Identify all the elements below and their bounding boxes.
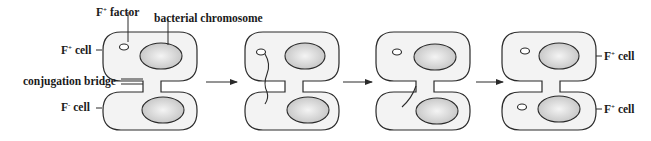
f-factor-plasmid — [257, 49, 266, 55]
bacterial-chromosome-top — [414, 44, 456, 70]
bacterial-chromosome-bottom — [538, 96, 580, 122]
f-factor-plasmid — [393, 49, 402, 55]
stage-2 — [245, 32, 339, 130]
bacterial-chromosome-top — [285, 43, 325, 69]
bacterial-chromosome-top — [539, 43, 579, 69]
label-f-minus-cell: F- cell — [61, 101, 90, 113]
label-conjugation-bridge: conjugation bridge — [23, 75, 116, 88]
conjugation-diagram: F+ factor bacterial chromosome F+ cell c… — [0, 0, 651, 141]
stage-4 — [502, 32, 596, 130]
stage-1 — [103, 32, 197, 130]
label-f-plus-cell: F+ cell — [61, 44, 92, 56]
bacterial-chromosome-bottom — [287, 97, 329, 123]
bacterial-chromosome-bottom — [142, 97, 184, 123]
bacterial-chromosome-bottom — [416, 98, 458, 124]
bacterial-chromosome-top — [140, 43, 182, 69]
label-bacterial-chromosome: bacterial chromosome — [154, 12, 263, 24]
label-result-top-cell: F+ cell — [604, 50, 635, 62]
label-result-bottom-cell: F+ cell — [604, 103, 635, 115]
stage-3 — [376, 32, 470, 130]
f-factor-plasmid-top — [521, 48, 530, 54]
f-factor-plasmid-bottom — [518, 104, 527, 110]
f-factor-plasmid — [120, 44, 129, 50]
label-f-factor: F+ factor — [96, 6, 139, 18]
